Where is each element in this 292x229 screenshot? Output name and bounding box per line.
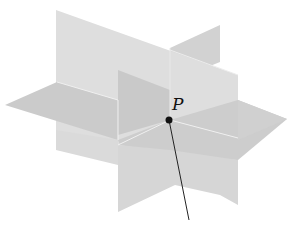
point-p	[166, 117, 173, 124]
three-planes-diagram: P	[0, 0, 292, 229]
point-p-label: P	[171, 94, 184, 114]
diagram-canvas: P	[0, 0, 292, 229]
